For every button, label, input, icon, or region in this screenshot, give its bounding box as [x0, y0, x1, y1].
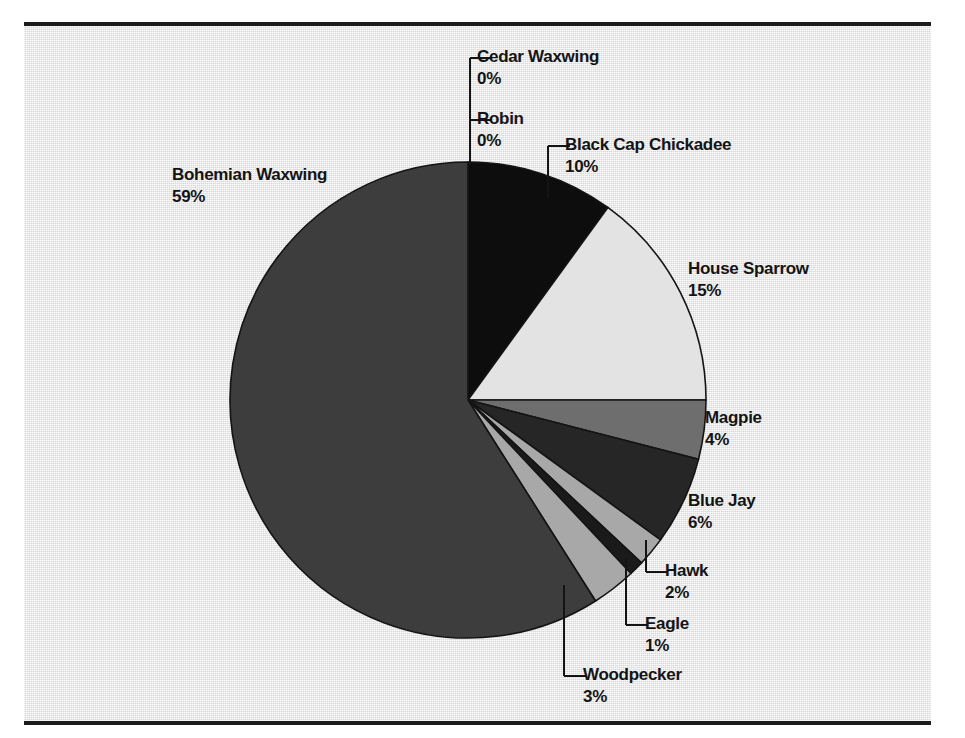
- slice-label-robin-value: 0%: [477, 130, 524, 152]
- slice-label-magpie: Magpie 4%: [705, 407, 762, 452]
- slice-label-hawk: Hawk 2%: [665, 560, 708, 605]
- slice-label-eagle: Eagle 1%: [645, 613, 689, 658]
- slice-label-house-sparrow: House Sparrow 15%: [688, 258, 809, 303]
- slice-label-woodpecker-name: Woodpecker: [583, 665, 682, 684]
- slice-label-black-cap-chickadee-value: 10%: [565, 156, 731, 178]
- slice-label-house-sparrow-value: 15%: [688, 280, 809, 302]
- slice-label-woodpecker: Woodpecker 3%: [583, 664, 682, 709]
- bottom-rule: [24, 721, 931, 725]
- slice-label-black-cap-chickadee: Black Cap Chickadee 10%: [565, 134, 731, 179]
- slice-label-eagle-value: 1%: [645, 635, 689, 657]
- slice-label-bohemian-waxwing: Bohemian Waxwing 59%: [172, 164, 327, 209]
- slice-label-magpie-value: 4%: [705, 429, 762, 451]
- slice-label-blue-jay: Blue Jay 6%: [688, 490, 756, 535]
- slice-label-black-cap-chickadee-name: Black Cap Chickadee: [565, 135, 731, 154]
- slice-label-bohemian-waxwing-value: 59%: [172, 186, 327, 208]
- slice-label-woodpecker-value: 3%: [583, 686, 682, 708]
- slice-label-blue-jay-value: 6%: [688, 512, 756, 534]
- slice-label-robin: Robin 0%: [477, 108, 524, 153]
- slice-label-robin-name: Robin: [477, 109, 524, 128]
- slice-label-cedar-waxwing-value: 0%: [477, 68, 599, 90]
- slice-label-house-sparrow-name: House Sparrow: [688, 259, 809, 278]
- slice-label-hawk-value: 2%: [665, 582, 708, 604]
- slice-label-hawk-name: Hawk: [665, 561, 708, 580]
- slice-label-blue-jay-name: Blue Jay: [688, 491, 756, 510]
- slice-label-bohemian-waxwing-name: Bohemian Waxwing: [172, 165, 327, 184]
- slice-label-eagle-name: Eagle: [645, 614, 689, 633]
- slice-label-magpie-name: Magpie: [705, 408, 762, 427]
- slice-label-cedar-waxwing: Cedar Waxwing 0%: [477, 46, 599, 91]
- figure-container: Cedar Waxwing 0% Robin 0% Black Cap Chic…: [0, 0, 965, 738]
- slice-label-cedar-waxwing-name: Cedar Waxwing: [477, 47, 599, 66]
